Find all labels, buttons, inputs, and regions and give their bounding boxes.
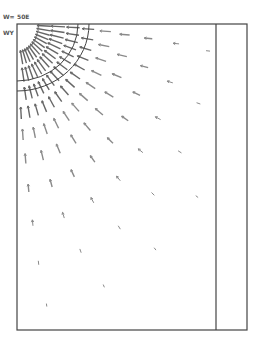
label-value: 50E <box>17 13 29 20</box>
vector-arrow <box>37 25 51 26</box>
vector-arrow <box>91 71 101 76</box>
vector-arrow <box>64 45 76 49</box>
vector-arrow <box>84 123 90 131</box>
vector-arrow <box>152 193 155 196</box>
vector-arrow <box>63 111 69 120</box>
vector-arrow <box>107 138 113 144</box>
vector-arrow <box>71 135 76 144</box>
vector-arrow <box>55 92 62 102</box>
plot-frame <box>17 24 247 330</box>
vector-arrow <box>66 79 75 87</box>
vector-arrow <box>79 93 87 100</box>
vector-arrow <box>196 196 198 198</box>
vector-arrow <box>86 82 95 88</box>
label-w: W= <box>3 13 15 20</box>
vector-arrow <box>48 43 61 49</box>
vector-arrow <box>34 84 38 96</box>
vector-arrow <box>60 86 68 95</box>
vector-arrow <box>51 26 65 27</box>
vector-arrow <box>42 101 47 112</box>
vector-arrow <box>33 39 44 47</box>
vector-arrow <box>25 67 28 81</box>
vector-arrow <box>118 226 120 229</box>
vector-field-diagram <box>0 0 259 341</box>
vector-arrow <box>105 92 114 97</box>
vector-arrow <box>80 249 81 253</box>
arrow-field <box>20 24 210 306</box>
vector-arrow <box>28 66 33 79</box>
vector-arrow <box>49 39 62 44</box>
vector-arrow <box>54 118 59 128</box>
vector-arrow <box>74 64 85 70</box>
vector-arrow <box>103 285 104 288</box>
vector-arrow <box>154 248 156 250</box>
vector-arrow <box>70 72 80 79</box>
vector-arrow <box>60 57 71 64</box>
vector-arrow <box>95 108 103 114</box>
label-wy: WY <box>3 29 14 36</box>
vector-arrow <box>50 35 64 38</box>
vector-arrow <box>49 97 55 108</box>
vector-arrow <box>72 103 79 111</box>
vector-arrow <box>197 103 201 104</box>
vector-arrow <box>178 151 181 153</box>
